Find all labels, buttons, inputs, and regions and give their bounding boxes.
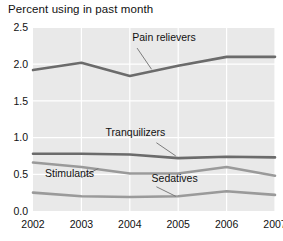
x-tick-label: 2003 [70,218,94,230]
y-tick-label: 2.0 [13,58,28,70]
series-label-tranquilizers: Tranquilizers [106,126,166,138]
y-tick-label: 1.0 [13,131,28,143]
y-tick-label: 2.5 [13,21,28,33]
series-label-stimulants: Stimulants [45,167,94,179]
series-label-pain-relievers: Pain relievers [132,31,196,43]
x-tick-label: 2005 [167,218,191,230]
y-tick-label: 1.5 [13,95,28,107]
y-axis-tick-labels: 0.00.51.01.52.02.5 [13,21,28,217]
chart-container: Percent using in past month Pain relieve… [0,0,283,241]
x-tick-label: 2002 [21,218,45,230]
x-axis-tick-labels: 200220032004200520062007 [21,218,283,230]
x-tick-label: 2007 [263,218,283,230]
line-chart-plot: Pain relieversTranquilizersStimulantsSed… [0,0,283,241]
y-tick-label: 0.0 [13,205,28,217]
series-label-sedatives: Sedatives [152,172,198,184]
x-tick-label: 2006 [215,218,239,230]
x-tick-label: 2004 [118,218,142,230]
y-tick-label: 0.5 [13,168,28,180]
